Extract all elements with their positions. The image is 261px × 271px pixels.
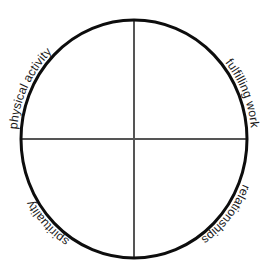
life-balance-circle-figure: physical activity fulfilling work spirit… bbox=[0, 0, 261, 271]
quadrant-label-fulfilling-work: fulfilling work bbox=[223, 56, 261, 129]
quadrant-label-spirituality-text: spirituality bbox=[22, 197, 71, 249]
quadrant-label-physical-activity: physical activity bbox=[6, 44, 55, 130]
quadrant-label-relationships-text: relationships bbox=[199, 183, 253, 247]
life-balance-circle-canvas: physical activity fulfilling work spirit… bbox=[0, 0, 261, 271]
quadrant-label-relationships: relationships bbox=[199, 183, 253, 247]
quadrant-label-fulfilling-work-text: fulfilling work bbox=[223, 56, 261, 129]
quadrant-label-spirituality: spirituality bbox=[22, 197, 71, 249]
quadrant-label-physical-activity-text: physical activity bbox=[6, 44, 55, 130]
